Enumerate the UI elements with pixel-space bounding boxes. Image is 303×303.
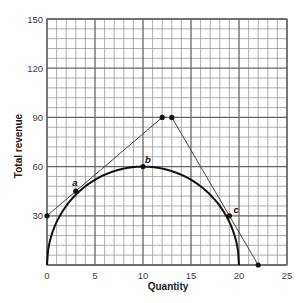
plot-frame (47, 19, 287, 265)
y-tick-label: 60 (32, 161, 43, 172)
y-tick-label: 120 (27, 63, 43, 74)
total-revenue-chart: 0510152025 306090120150 Quantity Total r… (0, 0, 303, 303)
y-tick-label: 90 (32, 112, 43, 123)
point-label-c: c (233, 204, 239, 215)
data-point-marker (169, 115, 174, 120)
y-axis-ticks: 306090120150 (27, 14, 43, 222)
x-axis-ticks: 0510152025 (44, 270, 292, 281)
data-point-marker (227, 213, 232, 218)
x-tick-label: 5 (92, 270, 97, 281)
x-tick-label: 10 (138, 270, 149, 281)
x-tick-label: 15 (186, 270, 197, 281)
grid-minor (47, 19, 287, 265)
point-label-b: b (145, 154, 151, 165)
grid-major (47, 19, 287, 265)
x-tick-label: 25 (282, 270, 293, 281)
data-point-marker (160, 115, 165, 120)
data-point-marker (140, 164, 145, 169)
tangent-line (172, 117, 258, 265)
x-axis-title: Quantity (148, 281, 189, 292)
y-axis-title: Total revenue (13, 113, 24, 178)
data-point-marker (73, 189, 78, 194)
y-tick-label: 30 (32, 210, 43, 221)
point-label-a: a (72, 177, 77, 188)
x-tick-label: 0 (44, 270, 49, 281)
data-point-marker (44, 213, 49, 218)
data-point-marker (256, 262, 261, 267)
y-tick-label: 150 (27, 14, 43, 25)
x-tick-label: 20 (234, 270, 245, 281)
